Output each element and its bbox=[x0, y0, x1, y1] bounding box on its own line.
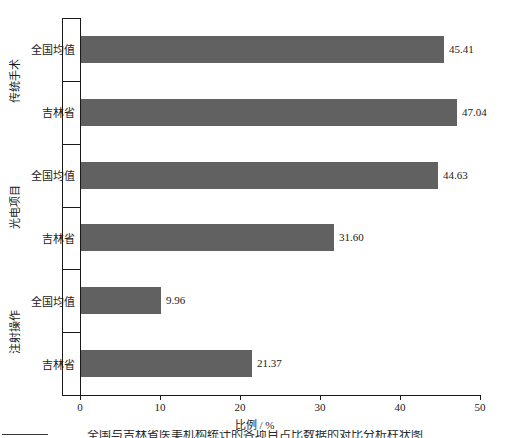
bar bbox=[81, 287, 161, 314]
bar bbox=[81, 224, 334, 251]
x-axis-tick bbox=[80, 395, 81, 400]
x-axis-tick-label: 50 bbox=[460, 401, 500, 413]
figure-caption: 全国与吉林省医美机构统计的各项目占比数据的对比分析柱状图 bbox=[0, 430, 509, 438]
y-axis-spine bbox=[80, 18, 81, 395]
x-axis-tick-label: 10 bbox=[140, 401, 180, 413]
category-label: 全国均值 bbox=[0, 293, 75, 309]
category-label: 全国均值 bbox=[0, 167, 75, 183]
group-label: 光电项目 bbox=[6, 144, 22, 270]
caption-text: 全国与吉林省医美机构统计的各项目占比数据的对比分析柱状图 bbox=[0, 430, 509, 438]
category-separator bbox=[62, 81, 80, 82]
bar-value-label: 47.04 bbox=[462, 99, 487, 126]
x-axis-spine bbox=[62, 395, 481, 396]
x-axis-tick bbox=[320, 395, 321, 400]
group-separator bbox=[62, 18, 80, 19]
group-separator bbox=[62, 144, 80, 145]
category-label: 全国均值 bbox=[0, 41, 75, 57]
x-axis-tick bbox=[400, 395, 401, 400]
category-label: 吉林省 bbox=[0, 230, 75, 246]
category-label: 吉林省 bbox=[0, 104, 75, 120]
bar-value-label: 31.60 bbox=[339, 224, 364, 251]
bar-value-label: 9.96 bbox=[166, 287, 185, 314]
category-label: 吉林省 bbox=[0, 356, 75, 372]
bar bbox=[81, 99, 457, 126]
group-separator bbox=[62, 269, 80, 270]
bar-value-label: 44.63 bbox=[443, 162, 468, 189]
bar-value-label: 45.41 bbox=[449, 36, 474, 63]
category-separator bbox=[62, 207, 80, 208]
x-axis-tick bbox=[160, 395, 161, 400]
bar-chart-figure: 传统手术光电项目注射操作 45.41全国均值47.04吉林省44.63全国均值3… bbox=[0, 0, 509, 438]
bar bbox=[81, 350, 252, 377]
category-separator bbox=[62, 332, 80, 333]
x-axis-tick bbox=[240, 395, 241, 400]
group-label: 注射操作 bbox=[6, 269, 22, 395]
group-separator bbox=[62, 395, 80, 396]
x-axis-tick bbox=[480, 395, 481, 400]
x-axis-tick-label: 0 bbox=[60, 401, 100, 413]
group-label: 传统手术 bbox=[6, 18, 22, 144]
bar bbox=[81, 162, 438, 189]
x-axis-tick-label: 30 bbox=[300, 401, 340, 413]
x-axis-tick-label: 20 bbox=[220, 401, 260, 413]
x-axis-tick-label: 40 bbox=[380, 401, 420, 413]
bar-value-label: 21.37 bbox=[257, 350, 282, 377]
bar bbox=[81, 36, 444, 63]
